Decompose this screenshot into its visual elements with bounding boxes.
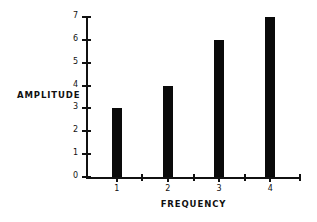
y-tick-label: 2 (64, 126, 78, 134)
y-axis-title: AMPLITUDE (17, 90, 81, 100)
x-tick-mark-minor (244, 174, 246, 181)
y-tick-label: 1 (64, 149, 78, 157)
x-tick-mark-minor (141, 174, 143, 181)
y-tick-label: 5 (64, 58, 78, 66)
x-axis-title: FREQUENCY (86, 199, 301, 209)
y-tick-mark (82, 130, 91, 132)
chart-screenshot: 01234567 1234 AMPLITUDE FREQUENCY (0, 0, 317, 222)
y-tick-mark (82, 85, 91, 87)
y-tick-mark (82, 16, 91, 18)
y-tick-label: 3 (64, 103, 78, 111)
y-tick-mark (82, 176, 91, 178)
bar (214, 40, 224, 177)
y-tick-label: 7 (64, 12, 78, 20)
x-tick-mark-minor (193, 174, 195, 181)
y-tick-mark (82, 153, 91, 155)
bar-chart-plot-area: 01234567 1234 AMPLITUDE FREQUENCY (0, 0, 317, 222)
y-tick-mark (82, 62, 91, 64)
y-tick-mark (82, 107, 91, 109)
bar (265, 17, 275, 177)
y-tick-label: 6 (64, 35, 78, 43)
bar (163, 86, 173, 177)
x-tick-label: 1 (105, 184, 129, 193)
x-tick-label: 2 (156, 184, 180, 193)
bar (112, 108, 122, 177)
x-tick-label: 3 (207, 184, 231, 193)
x-tick-label: 4 (258, 184, 282, 193)
y-tick-mark (82, 39, 91, 41)
y-tick-label: 0 (64, 172, 78, 180)
x-tick-mark-end (299, 174, 301, 181)
y-tick-label: 4 (64, 81, 78, 89)
